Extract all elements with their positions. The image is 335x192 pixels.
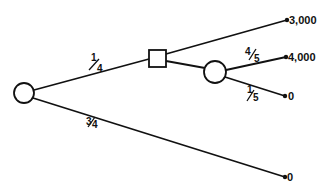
branch-root-to-terminal-4 xyxy=(33,98,285,177)
root-chance-node xyxy=(14,83,34,103)
payoff-label-3: 0 xyxy=(288,90,294,102)
branch-decision-to-chance2 xyxy=(166,61,205,68)
payoff-label-2: 4,000 xyxy=(288,51,316,63)
probability-label-4-5: 4 5 xyxy=(245,46,260,64)
chance-node-2 xyxy=(204,61,226,83)
branch-root-to-decision xyxy=(34,59,149,90)
prob-denominator: 5 xyxy=(254,53,260,64)
payoff-label-1: 3,000 xyxy=(289,14,317,26)
probability-label-1-4: 1 4 xyxy=(89,52,103,74)
decision-tree-diagram: 3,000 4,000 0 0 1 4 3 4 4 5 1 5 xyxy=(0,0,335,192)
prob-numerator: 4 xyxy=(245,46,251,57)
branch-decision-to-terminal-1 xyxy=(166,20,287,54)
probability-label-3-4: 3 4 xyxy=(86,116,98,130)
terminal-dot-3 xyxy=(283,94,287,98)
payoff-label-4: 0 xyxy=(287,171,293,183)
decision-node xyxy=(149,50,166,67)
prob-denominator: 5 xyxy=(253,92,259,103)
prob-denominator: 4 xyxy=(92,119,98,130)
prob-denominator: 4 xyxy=(97,63,103,74)
